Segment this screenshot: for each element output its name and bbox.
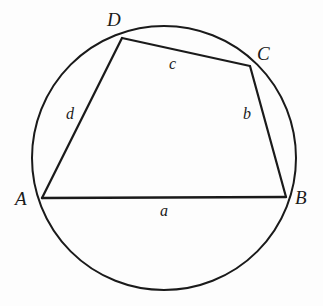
side-label-b: b <box>243 106 251 122</box>
vertex-label-b: B <box>295 188 307 207</box>
vertex-label-a: A <box>15 189 27 208</box>
side-b-segment <box>250 66 286 197</box>
side-d-segment <box>42 38 122 198</box>
side-label-a: a <box>160 203 168 219</box>
side-c-segment <box>122 38 250 66</box>
vertex-label-d: D <box>107 10 121 29</box>
side-a-segment <box>42 197 286 198</box>
side-label-d: d <box>66 106 74 122</box>
circumcircle <box>32 26 296 290</box>
geometry-figure: A B C D a b c d <box>0 0 323 306</box>
vertex-label-c: C <box>257 44 270 63</box>
geometry-canvas <box>0 0 323 306</box>
side-label-c: c <box>169 56 176 72</box>
